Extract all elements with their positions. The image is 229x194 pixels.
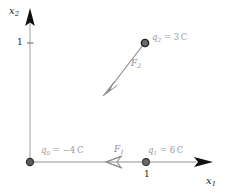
x-axis-tick-label-1: 1 (144, 170, 150, 179)
y-axis-label: x2 (9, 6, 19, 18)
y-axis-tick-label-1: 1 (17, 38, 23, 47)
diagram-canvas (0, 0, 229, 194)
charge-label-q0: q0 = −4 C (41, 146, 83, 156)
charge-label-q1: q1 = 6 C (148, 146, 183, 156)
x-axis-label: x1 (206, 176, 216, 188)
charge-dot-q2 (141, 39, 148, 46)
force-label-f2: F2 (131, 59, 141, 69)
force-label-f1: F1 (114, 145, 124, 155)
charge-dot-q1 (143, 159, 150, 166)
charge-label-q2: q2 = 3 C (152, 33, 187, 43)
charge-dot-q0 (26, 158, 33, 165)
force-diagram-figure: x2 x1 1 1 q0 = −4 C q1 = 6 C q2 = 3 C F1… (0, 0, 229, 194)
x-axis-arrowhead (194, 157, 213, 167)
